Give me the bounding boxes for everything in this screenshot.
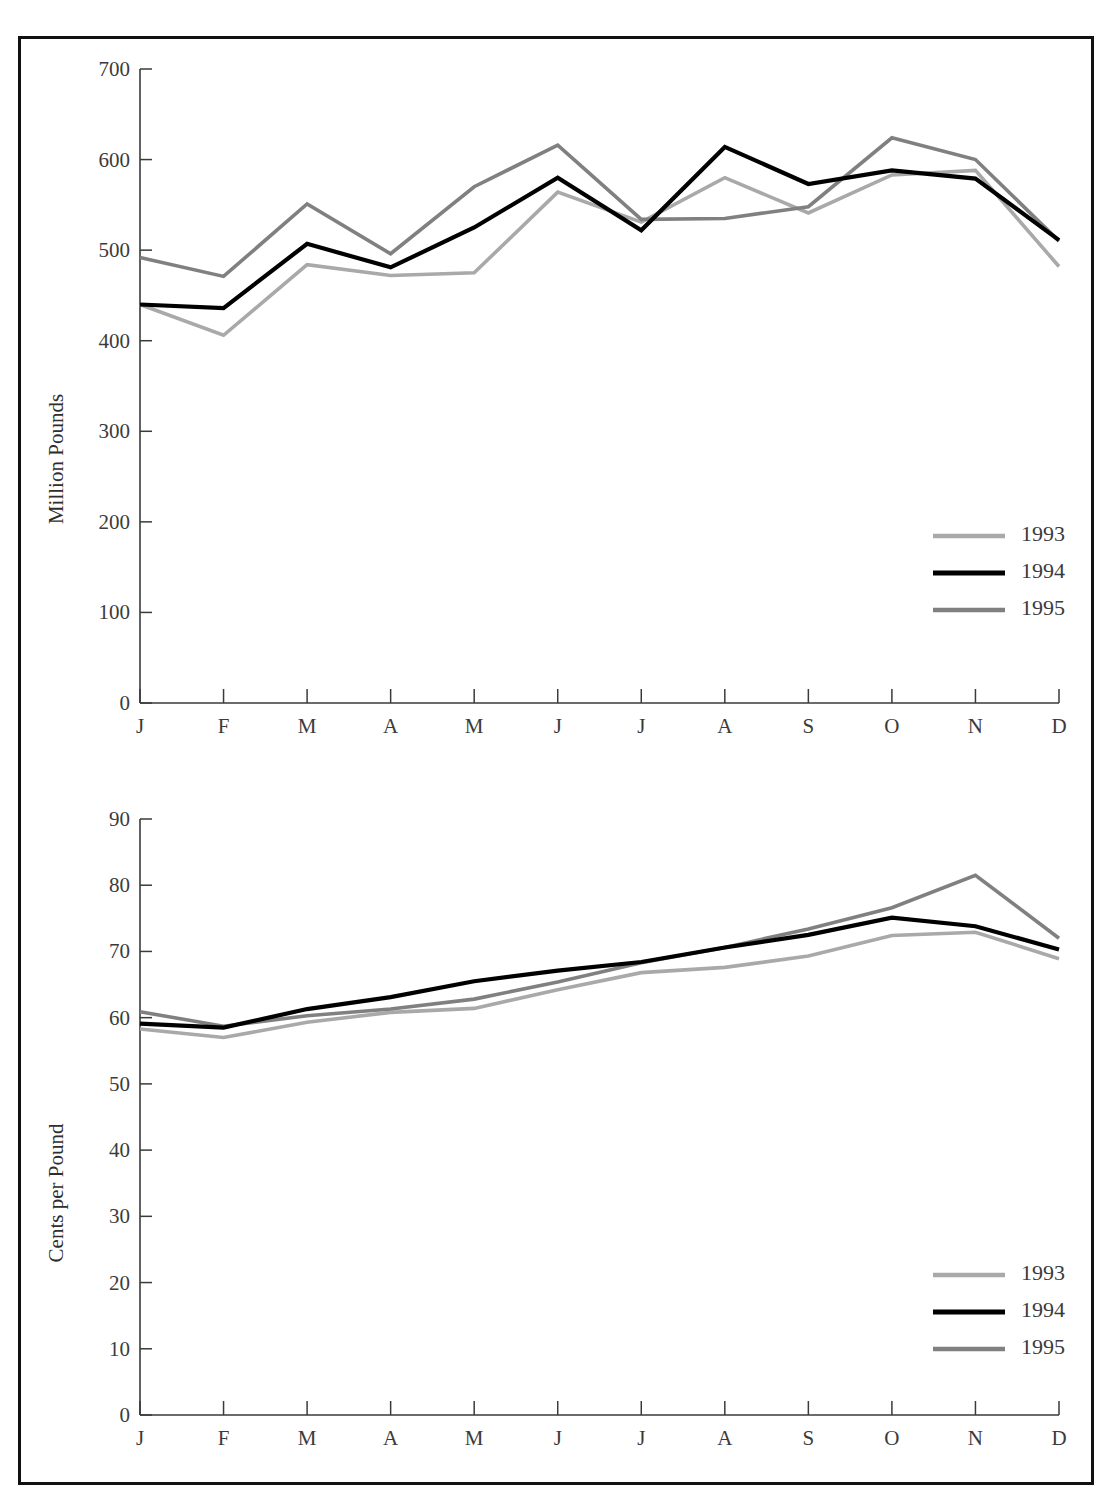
x-tick-label: F <box>218 714 230 738</box>
x-tick-label: A <box>383 1426 399 1450</box>
x-tick-label: S <box>803 1426 815 1450</box>
y-tick-label: 90 <box>109 807 130 831</box>
x-tick-label: J <box>136 1426 144 1450</box>
x-tick-label: O <box>884 714 899 738</box>
x-tick-label: J <box>637 1426 645 1450</box>
y-tick-label: 70 <box>109 939 130 963</box>
y-tick-label: 30 <box>109 1204 130 1228</box>
legend-label-1995: 1995 <box>1021 595 1065 620</box>
legend-label-1995: 1995 <box>1021 1334 1065 1359</box>
series-line-1993 <box>140 170 1059 335</box>
y-tick-label: 100 <box>99 600 131 624</box>
y-tick-label: 0 <box>120 691 131 715</box>
x-tick-label: S <box>803 714 815 738</box>
series-line-1995 <box>140 875 1059 1026</box>
chart-milk-production-svg: 0100200300400500600700JFMAMJJASONDMillio… <box>21 39 1091 763</box>
legend-label-1994: 1994 <box>1021 558 1065 583</box>
legend-label-1994: 1994 <box>1021 1297 1065 1322</box>
y-tick-label: 60 <box>109 1006 130 1030</box>
x-tick-label: A <box>717 714 733 738</box>
y-tick-label: 80 <box>109 873 130 897</box>
chart-milk-price: 0102030405060708090JFMAMJJASONDCents per… <box>21 763 1091 1488</box>
x-tick-label: J <box>136 714 144 738</box>
y-axis-title: Million Pounds <box>44 394 68 524</box>
y-tick-label: 300 <box>99 419 131 443</box>
y-axis-title: Cents per Pound <box>44 1123 68 1262</box>
x-tick-label: M <box>465 1426 484 1450</box>
x-tick-label: J <box>554 714 562 738</box>
x-tick-label: M <box>298 1426 317 1450</box>
y-tick-label: 20 <box>109 1271 130 1295</box>
x-tick-label: J <box>637 714 645 738</box>
y-tick-label: 400 <box>99 329 131 353</box>
x-tick-label: D <box>1051 1426 1066 1450</box>
x-tick-label: J <box>554 1426 562 1450</box>
legend-label-1993: 1993 <box>1021 521 1065 546</box>
y-tick-label: 200 <box>99 510 131 534</box>
y-tick-label: 600 <box>99 148 131 172</box>
x-tick-label: F <box>218 1426 230 1450</box>
y-tick-label: 700 <box>99 57 131 81</box>
y-tick-label: 500 <box>99 238 131 262</box>
y-tick-label: 50 <box>109 1072 130 1096</box>
chart-milk-price-svg: 0102030405060708090JFMAMJJASONDCents per… <box>21 763 1091 1488</box>
x-tick-label: M <box>465 714 484 738</box>
page-frame: 0100200300400500600700JFMAMJJASONDMillio… <box>18 36 1094 1485</box>
x-tick-label: M <box>298 714 317 738</box>
legend-label-1993: 1993 <box>1021 1260 1065 1285</box>
y-tick-label: 0 <box>120 1403 131 1427</box>
series-line-1993 <box>140 932 1059 1037</box>
x-tick-label: D <box>1051 714 1066 738</box>
y-tick-label: 10 <box>109 1337 130 1361</box>
chart-milk-production: 0100200300400500600700JFMAMJJASONDMillio… <box>21 39 1091 763</box>
y-tick-label: 40 <box>109 1138 130 1162</box>
x-tick-label: A <box>717 1426 733 1450</box>
x-tick-label: N <box>968 1426 983 1450</box>
x-tick-label: N <box>968 714 983 738</box>
x-tick-label: O <box>884 1426 899 1450</box>
x-tick-label: A <box>383 714 399 738</box>
